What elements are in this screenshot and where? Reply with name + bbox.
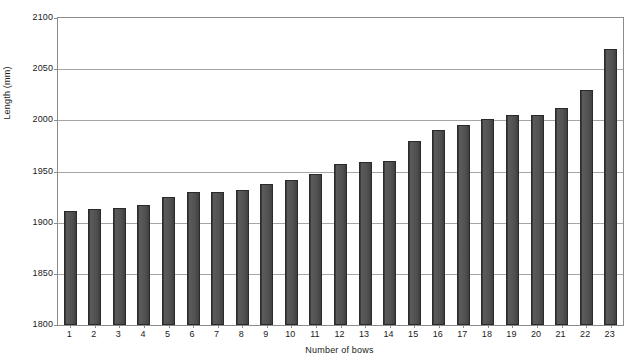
bar <box>506 115 519 325</box>
bar <box>580 90 593 325</box>
y-axis-tick <box>54 223 58 224</box>
bar <box>64 211 77 325</box>
y-axis-tick-label: 2050 <box>23 63 53 73</box>
y-axis-tick-label: 1850 <box>23 268 53 278</box>
x-axis-tick-label: 23 <box>595 328 625 340</box>
bar <box>531 115 544 325</box>
bar <box>211 192 224 325</box>
bar <box>88 209 101 325</box>
bar <box>113 208 126 325</box>
y-axis-tick <box>54 172 58 173</box>
x-axis-title: Number of bows <box>57 345 622 355</box>
bar <box>187 192 200 325</box>
y-axis-tick-label: 2100 <box>23 12 53 22</box>
y-axis-tick <box>54 18 58 19</box>
bar <box>334 164 347 325</box>
bar <box>260 184 273 325</box>
bar <box>383 161 396 325</box>
bar <box>408 141 421 325</box>
bar <box>604 49 617 325</box>
bar <box>555 108 568 325</box>
bar <box>432 130 445 325</box>
bar <box>359 162 372 325</box>
bar <box>137 205 150 325</box>
bar <box>457 125 470 325</box>
y-axis-tick-label: 1900 <box>23 217 53 227</box>
x-axis-tick-labels: 1234567891011121314151617181920212223 <box>57 328 622 342</box>
y-axis-tick <box>54 274 58 275</box>
bar <box>162 197 175 325</box>
y-axis-title: Length (mm) <box>0 38 14 148</box>
y-axis-tick-label: 2000 <box>23 114 53 124</box>
bar <box>285 180 298 325</box>
bars-layer <box>58 18 623 325</box>
bar <box>309 174 322 325</box>
bar <box>481 119 494 325</box>
bar <box>236 190 249 325</box>
plot-area <box>57 17 624 326</box>
y-axis-tick <box>54 120 58 121</box>
y-axis-tick <box>54 69 58 70</box>
y-axis-tick-labels: 1800185019001950200020502100 <box>20 0 53 362</box>
y-axis-tick <box>54 325 58 326</box>
y-axis-tick-label: 1800 <box>23 319 53 329</box>
bar-chart: Length (mm) 1800185019001950200020502100… <box>0 0 631 362</box>
y-axis-tick-label: 1950 <box>23 166 53 176</box>
